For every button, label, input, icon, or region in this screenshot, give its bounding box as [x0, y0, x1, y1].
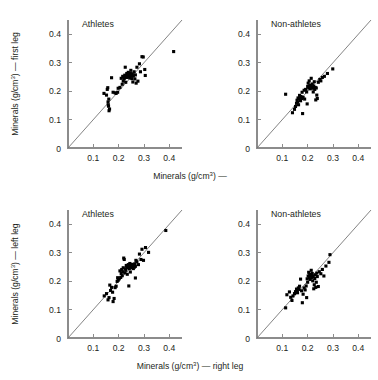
data-point	[144, 246, 147, 249]
data-point	[133, 70, 136, 73]
data-point	[137, 263, 140, 266]
panel-top-right: 0.10.20.30.40.10.20.30.40Non-athletes	[189, 0, 378, 190]
origin-label: 0	[56, 144, 61, 154]
panel-bottom-right-plot: 0.10.20.30.40.10.20.30.40Non-athletes	[238, 209, 371, 353]
data-point	[306, 102, 309, 105]
origin-label: 0	[245, 144, 250, 154]
x-tick-label: 0.3	[138, 153, 150, 163]
x-tick-label: 0.2	[302, 153, 314, 163]
x-tick-label: 0.4	[352, 343, 364, 353]
data-point	[301, 301, 304, 304]
data-point	[297, 103, 300, 106]
data-point	[315, 94, 318, 97]
data-point	[110, 286, 113, 289]
x-tick-label: 0.2	[113, 153, 125, 163]
data-point	[138, 253, 141, 256]
x-axis-title-text: Minerals (g/cm3) —	[153, 171, 227, 181]
panel-top-right-plot: 0.10.20.30.40.10.20.30.40Non-athletes	[238, 19, 371, 163]
data-point	[142, 55, 145, 58]
y-tick-label: 0.1	[49, 305, 61, 315]
data-point	[142, 259, 145, 262]
y-tick-label: 0.2	[49, 276, 61, 286]
data-point	[294, 105, 297, 108]
x-tick-label: 0.3	[327, 153, 339, 163]
data-point	[129, 69, 132, 72]
data-point	[172, 50, 175, 53]
data-point	[316, 275, 319, 278]
data-point	[300, 289, 303, 292]
y-tick-label: 0.1	[238, 115, 250, 125]
data-point	[302, 293, 305, 296]
data-point	[319, 272, 322, 275]
x-tick-label: 0.4	[163, 153, 175, 163]
origin-label: 0	[56, 334, 61, 344]
data-point	[304, 288, 307, 291]
scatter-figure: 0.10.20.30.40.10.20.30.40AthletesMineral…	[0, 0, 378, 380]
data-point	[115, 285, 118, 288]
x-tick-label: 0.3	[327, 343, 339, 353]
data-point	[107, 105, 110, 108]
y-tick-label: 0.3	[49, 248, 61, 258]
x-axis-title-top: Minerals (g/cm3) —	[0, 168, 378, 186]
y-tick-label: 0.4	[49, 219, 61, 229]
data-point	[127, 284, 130, 287]
data-point	[105, 292, 108, 295]
x-tick-label: 0.1	[87, 343, 99, 353]
data-point	[305, 90, 308, 93]
panel-bottom-left-plot: 0.10.20.30.40.10.20.30.40AthletesMineral…	[10, 209, 182, 353]
data-point	[305, 296, 308, 299]
y-tick-label: 0.4	[238, 219, 250, 229]
x-tick-label: 0.1	[87, 153, 99, 163]
y-tick-label: 0.1	[238, 305, 250, 315]
data-point	[106, 100, 109, 103]
data-point	[118, 86, 121, 89]
data-point	[284, 306, 287, 309]
data-point	[293, 108, 296, 111]
data-point	[138, 62, 141, 65]
data-point	[105, 94, 108, 97]
data-point	[110, 76, 113, 79]
origin-label: 0	[245, 334, 250, 344]
y-tick-label: 0.3	[49, 58, 61, 68]
data-point	[116, 91, 119, 94]
panel-title: Athletes	[82, 209, 114, 219]
data-point	[107, 98, 110, 101]
y-tick-label: 0.1	[49, 115, 61, 125]
data-point	[136, 80, 139, 83]
data-point	[298, 285, 301, 288]
x-tick-label: 0.2	[302, 343, 314, 353]
data-point	[124, 81, 127, 84]
data-point	[126, 273, 129, 276]
panel-title: Athletes	[82, 19, 114, 29]
panel-bottom-right-svg: 0.10.20.30.40.10.20.30.40Non-athletes	[189, 190, 378, 380]
data-point	[108, 107, 111, 110]
data-point	[323, 75, 326, 78]
data-point	[306, 281, 309, 284]
data-point	[121, 83, 124, 86]
data-point	[144, 74, 147, 77]
y-tick-label: 0.4	[238, 29, 250, 39]
panel-bottom-left: 0.10.20.30.40.10.20.30.40AthletesMineral…	[0, 190, 189, 380]
axis-title-text: Minerals (g/cm3) — first leg	[10, 32, 20, 136]
data-point	[303, 98, 306, 101]
data-point	[139, 70, 142, 73]
data-point	[296, 291, 299, 294]
data-point	[112, 300, 115, 303]
data-point	[129, 270, 132, 273]
data-point	[140, 248, 143, 251]
data-point	[284, 93, 287, 96]
data-point	[134, 276, 137, 279]
data-point	[326, 72, 329, 75]
y-tick-label: 0.2	[49, 86, 61, 96]
y-tick-label: 0.4	[49, 29, 61, 39]
data-point	[164, 229, 167, 232]
data-point	[301, 112, 304, 115]
data-point	[134, 73, 137, 76]
x-tick-label: 0.1	[276, 343, 288, 353]
data-point	[310, 77, 313, 80]
y-tick-label: 0.2	[238, 276, 250, 286]
data-point	[133, 77, 136, 80]
panel-bottom-right: 0.10.20.30.40.10.20.30.40Non-athletes	[189, 190, 378, 380]
x-tick-label: 0.4	[163, 343, 175, 353]
data-point	[299, 278, 302, 281]
